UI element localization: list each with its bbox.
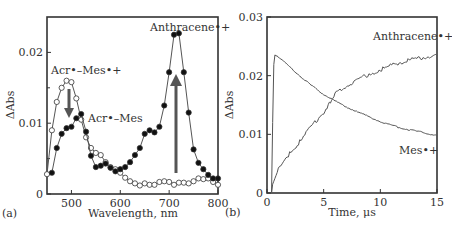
panel-b-xlabel: Time, μs bbox=[328, 206, 376, 219]
filled-marker bbox=[118, 167, 123, 172]
open-marker bbox=[64, 78, 69, 83]
y-tick-label: 0.01 bbox=[19, 117, 44, 130]
annotation-anthracene-a: Anthracene•+ bbox=[149, 21, 230, 34]
arrow-up-head-icon bbox=[170, 74, 182, 86]
open-marker bbox=[59, 85, 64, 90]
annotation-mes: Mes•+ bbox=[399, 144, 438, 157]
y-tick-label: 0.02 bbox=[19, 46, 44, 59]
open-marker bbox=[98, 152, 103, 157]
annotation-acr-mes-cation: Acr•–Mes•+ bbox=[50, 64, 121, 77]
filled-marker bbox=[113, 169, 118, 174]
series-line bbox=[272, 55, 437, 193]
filled-marker bbox=[64, 126, 69, 131]
y-tick-label: 0 bbox=[36, 188, 43, 201]
filled-marker bbox=[167, 70, 172, 75]
open-marker bbox=[171, 182, 176, 187]
panel-a: 50060070080000.010.02 Anthracene•+ Acr•–… bbox=[2, 17, 230, 220]
annotation-anthracene-b: Anthracene•+ bbox=[372, 30, 452, 43]
filled-marker bbox=[152, 130, 157, 135]
y-tick-label: 0.03 bbox=[239, 11, 264, 24]
open-marker bbox=[186, 181, 191, 186]
open-marker bbox=[201, 177, 206, 182]
filled-marker bbox=[98, 163, 103, 168]
open-marker bbox=[191, 179, 196, 184]
filled-marker bbox=[108, 165, 113, 170]
panel-b-series bbox=[272, 54, 437, 193]
filled-marker bbox=[201, 167, 206, 172]
filled-marker bbox=[123, 164, 128, 169]
open-marker bbox=[167, 179, 172, 184]
filled-marker bbox=[191, 147, 196, 152]
x-tick-label: 15 bbox=[430, 196, 444, 209]
open-marker bbox=[132, 181, 137, 186]
open-marker bbox=[93, 150, 98, 155]
panel-a-ylabel: ΔAbs bbox=[4, 90, 17, 119]
open-marker bbox=[54, 99, 59, 104]
filled-marker bbox=[137, 145, 142, 150]
panel-b-ylabel: ΔAbs bbox=[223, 90, 236, 119]
filled-marker bbox=[79, 111, 84, 116]
x-tick-label: 5 bbox=[320, 196, 327, 209]
panel-a-label: (a) bbox=[2, 207, 17, 220]
y-tick-label: 0.01 bbox=[239, 128, 264, 141]
panel-b: 05101500.010.020.03 Anthracene•+ Mes•+ T… bbox=[223, 11, 452, 219]
open-marker bbox=[49, 128, 54, 133]
series-line bbox=[47, 81, 218, 186]
annotation-acr-mes: Acr•–Mes bbox=[87, 112, 143, 125]
open-marker bbox=[127, 179, 132, 184]
filled-marker bbox=[103, 161, 108, 166]
figure: 50060070080000.010.02 Anthracene•+ Acr•–… bbox=[0, 0, 452, 231]
open-marker bbox=[152, 182, 157, 187]
open-marker bbox=[181, 180, 186, 185]
panel-b-frame bbox=[267, 17, 437, 193]
x-tick-label: 500 bbox=[61, 197, 82, 210]
panel-b-label: (b) bbox=[225, 206, 241, 219]
open-marker bbox=[123, 175, 128, 180]
series-line bbox=[272, 54, 437, 193]
open-marker bbox=[176, 180, 181, 185]
y-tick-label: 0.02 bbox=[239, 70, 264, 83]
open-marker bbox=[44, 172, 49, 177]
filled-marker bbox=[142, 131, 147, 136]
filled-marker bbox=[54, 145, 59, 150]
filled-marker bbox=[147, 128, 152, 133]
filled-marker bbox=[59, 131, 64, 136]
filled-marker bbox=[132, 152, 137, 157]
panel-a-frame bbox=[47, 17, 218, 194]
open-marker bbox=[196, 176, 201, 181]
filled-marker bbox=[74, 116, 79, 121]
open-marker bbox=[137, 183, 142, 188]
open-marker bbox=[157, 179, 162, 184]
filled-marker bbox=[93, 164, 98, 169]
filled-marker bbox=[49, 170, 54, 175]
open-marker bbox=[69, 80, 74, 85]
arrow-down-head-icon bbox=[64, 108, 74, 118]
panel-a-xlabel: Wavelength, nm bbox=[88, 207, 178, 220]
open-marker bbox=[142, 181, 147, 186]
filled-marker bbox=[186, 110, 191, 115]
open-marker bbox=[215, 182, 220, 187]
filled-marker bbox=[157, 124, 162, 129]
filled-marker bbox=[196, 160, 201, 165]
open-marker bbox=[147, 182, 152, 187]
filled-marker bbox=[211, 176, 216, 181]
open-marker bbox=[74, 96, 79, 101]
filled-marker bbox=[206, 172, 211, 177]
y-tick-label: 0 bbox=[256, 187, 263, 200]
filled-marker bbox=[215, 176, 220, 181]
filled-marker bbox=[69, 124, 74, 129]
filled-marker bbox=[83, 129, 88, 134]
filled-marker bbox=[162, 103, 167, 108]
open-marker bbox=[162, 179, 167, 184]
filled-marker bbox=[181, 70, 186, 75]
filled-marker bbox=[88, 153, 93, 158]
filled-marker bbox=[127, 160, 132, 165]
x-tick-label: 0 bbox=[264, 196, 271, 209]
